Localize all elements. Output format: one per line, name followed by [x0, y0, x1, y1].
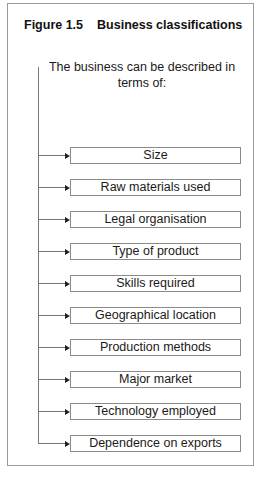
- connector-branch-line: [38, 283, 67, 284]
- connector-branch-line: [38, 411, 67, 412]
- connector-branch-line: [38, 155, 67, 156]
- classification-box: Dependence on exports: [70, 435, 241, 452]
- figure-caption: Business classifications: [97, 18, 242, 32]
- classification-box: Skills required: [70, 275, 241, 292]
- figure-number: Figure 1.5: [24, 18, 83, 32]
- figure-title: Figure 1.5Business classifications: [24, 18, 242, 32]
- connector-branch-line: [38, 187, 67, 188]
- connector-branch-line: [38, 443, 67, 444]
- classification-box: Production methods: [70, 339, 241, 356]
- classification-box: Legal organisation: [70, 211, 241, 228]
- classification-box: Raw materials used: [70, 179, 241, 196]
- classification-box: Technology employed: [70, 403, 241, 420]
- classification-box: Type of product: [70, 243, 241, 260]
- classification-box: Major market: [70, 371, 241, 388]
- classification-box: Size: [70, 147, 241, 164]
- intro-text: The business can be described in terms o…: [44, 59, 240, 91]
- connector-branch-line: [38, 219, 67, 220]
- connector-branch-line: [38, 379, 67, 380]
- connector-branch-line: [38, 251, 67, 252]
- connector-branch-line: [38, 347, 67, 348]
- connector-branch-line: [38, 315, 67, 316]
- connector-trunk-line: [38, 67, 39, 444]
- classification-box: Geographical location: [70, 307, 241, 324]
